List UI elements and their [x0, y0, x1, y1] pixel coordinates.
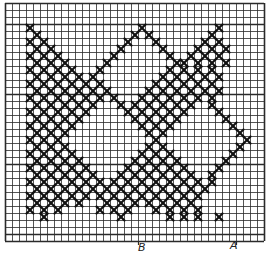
stitch-x-mark — [181, 207, 188, 214]
stitch-x-mark — [209, 102, 216, 109]
stitch-x-mark — [181, 95, 188, 102]
stitch-x-mark — [62, 186, 69, 193]
stitch-x-mark — [188, 186, 195, 193]
stitch-x-mark — [216, 109, 223, 116]
stitch-x-mark — [62, 116, 69, 123]
stitch-x-mark — [69, 95, 76, 102]
stitch-x-mark — [41, 123, 48, 130]
stitch-x-mark — [216, 39, 223, 46]
stitch-x-mark — [237, 130, 244, 137]
stitch-x-mark — [167, 81, 174, 88]
stitch-x-mark — [125, 179, 132, 186]
stitch-x-mark — [41, 109, 48, 116]
stitch-x-mark — [41, 151, 48, 158]
stitch-x-mark — [202, 53, 209, 60]
stitch-x-mark — [216, 214, 223, 221]
stitch-x-mark — [230, 123, 237, 130]
stitch-x-mark — [34, 32, 41, 39]
stitch-x-mark — [209, 179, 216, 186]
stitch-x-mark — [41, 53, 48, 60]
stitch-x-mark — [139, 95, 146, 102]
stitch-x-mark — [76, 172, 83, 179]
stitch-x-mark — [41, 207, 48, 214]
stitch-x-mark — [41, 81, 48, 88]
stitch-x-mark — [27, 25, 34, 32]
stitch-x-mark — [139, 25, 146, 32]
stitch-x-mark — [118, 200, 125, 207]
stitch-x-mark — [167, 193, 174, 200]
stitch-x-mark — [27, 81, 34, 88]
knitting-chart-grid — [0, 0, 280, 257]
stitch-x-mark — [34, 74, 41, 81]
stitch-x-mark — [139, 123, 146, 130]
stitch-x-mark — [195, 214, 202, 221]
stitch-x-mark — [55, 123, 62, 130]
stitch-x-mark — [132, 186, 139, 193]
stitch-x-mark — [111, 193, 118, 200]
stitch-x-mark — [69, 67, 76, 74]
stitch-x-mark — [160, 158, 167, 165]
stitch-x-mark — [174, 116, 181, 123]
stitch-x-mark — [69, 81, 76, 88]
stitch-x-mark — [97, 81, 104, 88]
stitch-x-mark — [48, 200, 55, 207]
stitch-x-mark — [181, 179, 188, 186]
stitch-x-mark — [160, 46, 167, 53]
stitch-x-mark — [41, 179, 48, 186]
stitch-x-mark — [153, 39, 160, 46]
stitch-x-mark — [41, 214, 48, 221]
stitch-x-mark — [118, 46, 125, 53]
stitch-x-mark — [132, 102, 139, 109]
stitch-x-mark — [174, 74, 181, 81]
stitch-x-mark — [90, 102, 97, 109]
stitch-x-mark — [216, 88, 223, 95]
stitch-x-mark — [146, 88, 153, 95]
stitch-x-mark — [167, 109, 174, 116]
stitch-x-mark — [27, 137, 34, 144]
stitch-x-mark — [118, 186, 125, 193]
stitch-x-mark — [55, 165, 62, 172]
stitch-x-mark — [139, 165, 146, 172]
stitch-x-mark — [125, 193, 132, 200]
stitch-x-mark — [76, 88, 83, 95]
stitch-x-mark — [167, 179, 174, 186]
stitch-x-mark — [216, 25, 223, 32]
stitch-x-mark — [202, 74, 209, 81]
stitch-x-mark — [76, 186, 83, 193]
stitch-x-mark — [153, 193, 160, 200]
stitch-x-mark — [76, 74, 83, 81]
stitch-x-mark — [125, 165, 132, 172]
stitch-x-mark — [111, 207, 118, 214]
stitch-x-mark — [174, 186, 181, 193]
stitch-x-mark — [195, 46, 202, 53]
stitch-x-mark — [27, 207, 34, 214]
stitch-x-mark — [83, 179, 90, 186]
stitch-x-mark — [62, 144, 69, 151]
stitch-x-mark — [167, 214, 174, 221]
stitch-x-mark — [237, 144, 244, 151]
stitch-x-mark — [181, 165, 188, 172]
stitch-x-mark — [62, 88, 69, 95]
stitch-x-mark — [223, 116, 230, 123]
stitch-x-mark — [132, 158, 139, 165]
stitch-x-mark — [160, 130, 167, 137]
stitch-x-mark — [202, 39, 209, 46]
stitch-x-mark — [69, 151, 76, 158]
stitch-x-mark — [27, 193, 34, 200]
stitch-x-mark — [188, 172, 195, 179]
stitch-x-mark — [167, 151, 174, 158]
stitch-x-mark — [132, 200, 139, 207]
stitch-x-mark — [181, 109, 188, 116]
stitch-x-mark — [27, 53, 34, 60]
stitch-x-mark — [83, 193, 90, 200]
stitch-x-mark — [174, 172, 181, 179]
stitch-x-mark — [55, 67, 62, 74]
stitch-x-mark — [104, 60, 111, 67]
stitch-x-mark — [55, 151, 62, 158]
stitch-x-mark — [209, 32, 216, 39]
stitch-x-mark — [48, 88, 55, 95]
stitch-x-mark — [146, 32, 153, 39]
stitch-x-mark — [153, 123, 160, 130]
stitch-x-mark — [83, 109, 90, 116]
stitch-x-mark — [34, 186, 41, 193]
